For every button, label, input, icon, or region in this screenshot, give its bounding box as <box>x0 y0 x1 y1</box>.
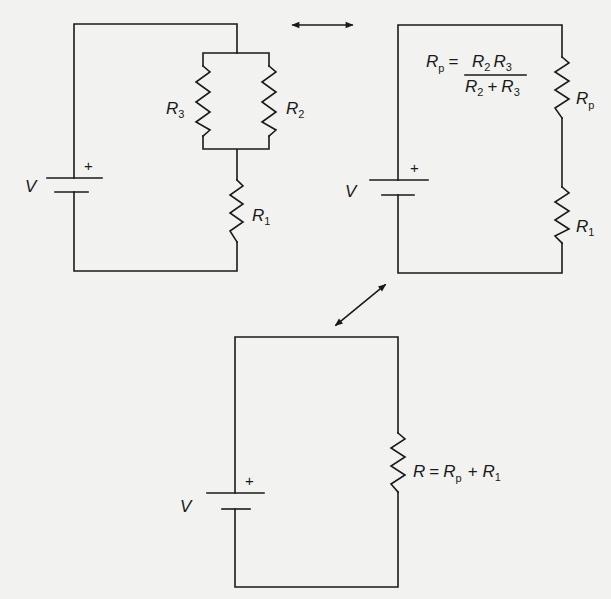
svg-text:Rp=: Rp= <box>426 52 458 74</box>
battery-plus-sign: + <box>245 472 254 489</box>
formula-r-total: R=Rp+R1 <box>413 462 501 484</box>
circuit-original: + V R3 R2 R1 <box>25 24 304 271</box>
wire <box>235 337 398 493</box>
battery-label: V <box>180 497 193 516</box>
circuit-equivalent: + V R=Rp+R1 <box>180 337 501 587</box>
resistor-r1 <box>230 180 243 242</box>
parallel-junction-bottom <box>203 136 269 180</box>
circuit-reduced: + V Rp R1 Rp= R2R3 R2+R3 <box>345 25 594 273</box>
battery-label: V <box>25 177 38 196</box>
resistor-r <box>391 433 405 492</box>
parallel-junction-top <box>203 53 269 66</box>
wire <box>74 192 237 271</box>
formula-rp: Rp= R2R3 R2+R3 <box>426 52 526 98</box>
battery-plus-sign: + <box>410 159 419 176</box>
circuit-diagram: + V R3 R2 R1 + V Rp R1 Rp= R2R3 R2+R3 <box>0 0 611 599</box>
wire <box>74 24 237 178</box>
resistor-rp <box>555 57 569 118</box>
formula-denominator: R2+R3 <box>465 77 520 98</box>
resistor-r1 <box>555 187 569 243</box>
label-r1: R1 <box>252 206 270 227</box>
label-r2: R2 <box>286 99 304 120</box>
double-arrow-diagonal-icon <box>336 285 385 325</box>
label-rp: Rp <box>576 89 594 111</box>
battery-plus-sign: + <box>84 157 93 174</box>
label-r1: R1 <box>576 217 594 238</box>
formula-numerator: R2R3 <box>472 52 512 73</box>
resistor-r3 <box>196 66 210 136</box>
wire <box>235 492 398 587</box>
battery-label: V <box>345 182 358 201</box>
label-r3: R3 <box>166 99 184 120</box>
wire <box>398 195 562 273</box>
resistor-r2 <box>262 66 276 136</box>
wire <box>398 25 562 180</box>
